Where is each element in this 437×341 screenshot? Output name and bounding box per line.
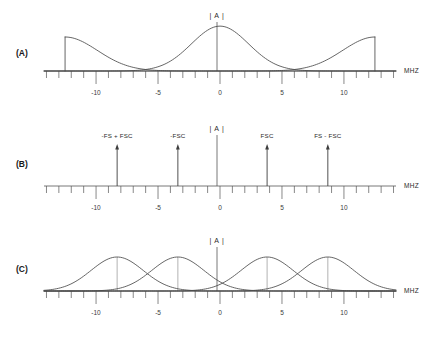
axis-tick-label: -10 (91, 309, 101, 316)
axis-tick-label: -10 (91, 204, 101, 211)
spectrum-spike-label: -FS + FSC (102, 132, 134, 139)
axis-tick-label: -5 (155, 204, 161, 211)
panel-a-amplitude-label: | A | (210, 12, 225, 20)
axis-tick-label: -5 (155, 309, 161, 316)
axis-tick-label: -10 (91, 89, 101, 96)
panel-b-amplitude-label: | A | (210, 125, 225, 133)
axis-tick-label: 10 (340, 89, 348, 96)
axis-tick-label: 0 (218, 89, 222, 96)
panel-c-amplitude-label: | A | (210, 237, 225, 245)
axis-tick-label: 0 (218, 204, 222, 211)
axis-tick-label: 10 (340, 204, 348, 211)
panel-a-unit-label: MHZ (404, 67, 419, 74)
spectrum-figure: (A) | A | MHZ -10-50510 (B) | A | MHZ -1… (0, 0, 437, 341)
axis-tick-label: 5 (280, 204, 284, 211)
spectrum-spike-label: FS - FSC (314, 132, 342, 139)
panel-c-unit-label: MHZ (404, 287, 419, 294)
spectrum-spike-label: -FSC (170, 132, 186, 139)
panel-b-label: (B) (16, 159, 28, 169)
panel-a-label: (A) (16, 48, 28, 58)
axis-tick-label: 0 (218, 309, 222, 316)
axis-tick-label: 10 (340, 309, 348, 316)
figure-background (0, 0, 437, 341)
panel-c-label: (C) (16, 264, 28, 274)
axis-tick-label: 5 (280, 309, 284, 316)
spectrum-spike-label: FSC (261, 132, 274, 139)
axis-tick-label: 5 (280, 89, 284, 96)
panel-b-unit-label: MHZ (404, 182, 419, 189)
axis-tick-label: -5 (155, 89, 161, 96)
